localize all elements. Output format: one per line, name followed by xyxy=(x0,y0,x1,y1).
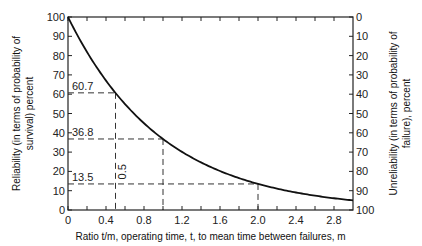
y-right-tick-label: 60 xyxy=(356,127,368,139)
y-left-tick-label: 10 xyxy=(53,185,65,197)
x-tick-label: 2.0 xyxy=(250,214,265,226)
y-left-tick-label: 50 xyxy=(53,108,65,120)
reference-value-label: 36.8 xyxy=(72,126,93,138)
x-tick-label: 0.4 xyxy=(98,214,113,226)
y-right-tick-label: 90 xyxy=(356,185,368,197)
plot-area: 00.40.81.21.62.02.42.8010010902080307040… xyxy=(11,11,412,242)
x-tick-label: 0.8 xyxy=(136,214,151,226)
x-tick-label: 0 xyxy=(65,214,71,226)
reliability-chart: 00.40.81.21.62.02.42.8010010902080307040… xyxy=(0,0,422,246)
y-left-tick-label: 90 xyxy=(53,30,65,42)
x-tick-label: 2.4 xyxy=(288,214,303,226)
y-right-tick-label: 70 xyxy=(356,146,368,158)
y-right-axis-title-line2: failure), percent xyxy=(401,79,412,149)
reliability-curve xyxy=(68,17,353,200)
y-right-tick-label: 50 xyxy=(356,108,368,120)
rotated-annotation: 0.5 xyxy=(117,164,129,179)
x-tick-label: 2.8 xyxy=(326,214,341,226)
y-left-tick-label: 80 xyxy=(53,50,65,62)
y-right-axis-title-line1: Unreliability (in terms of probability o… xyxy=(388,31,399,195)
y-right-tick-label: 0 xyxy=(356,11,362,23)
reference-value-label: 13.5 xyxy=(72,171,93,183)
y-left-tick-label: 70 xyxy=(53,69,65,81)
y-left-tick-label: 60 xyxy=(53,88,65,100)
plot-frame xyxy=(68,17,353,210)
y-right-tick-label: 30 xyxy=(356,69,368,81)
y-right-tick-label: 20 xyxy=(356,50,368,62)
y-left-axis-title-line2: survival) percent xyxy=(24,77,35,151)
reference-value-label: 60.7 xyxy=(72,80,93,92)
x-axis-title: Ratio t/m, operating time, t, to mean ti… xyxy=(75,231,345,242)
y-left-tick-label: 0 xyxy=(59,204,65,216)
y-left-tick-label: 20 xyxy=(53,165,65,177)
y-left-tick-label: 30 xyxy=(53,146,65,158)
y-right-tick-label: 80 xyxy=(356,165,368,177)
y-right-tick-label: 40 xyxy=(356,88,368,100)
x-tick-label: 1.6 xyxy=(212,214,227,226)
y-left-tick-label: 40 xyxy=(53,127,65,139)
y-right-tick-label: 100 xyxy=(356,204,374,216)
y-left-axis-title-line1: Reliability (in terms of probability of xyxy=(11,36,22,191)
y-left-tick-label: 100 xyxy=(47,11,65,23)
y-right-tick-label: 10 xyxy=(356,30,368,42)
x-tick-label: 1.2 xyxy=(174,214,189,226)
